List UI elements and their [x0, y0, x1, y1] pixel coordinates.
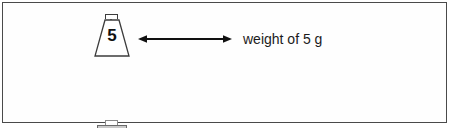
caption-known-value: 5: [303, 31, 311, 47]
row-unknown-weight: ? weight of ? g: [0, 58, 456, 118]
caption-known-suffix: g: [311, 31, 323, 47]
weight-value-label-unknown: ?: [98, 126, 126, 128]
weight-rectangle-unknown: ?: [88, 120, 136, 128]
weight-trapezoid-5g: 5: [88, 14, 136, 59]
caption-known-prefix: weight of: [243, 31, 303, 47]
figure-canvas: 5 weight of 5 g ? weight of ? g: [0, 0, 456, 128]
row-known-weight: 5 weight of 5 g: [0, 6, 456, 58]
double-headed-arrow-known: [138, 33, 232, 45]
rectangle-shape-icon: ?: [97, 125, 127, 128]
caption-known-weight: weight of 5 g: [243, 32, 322, 46]
weight-value-label-known: 5: [88, 27, 136, 44]
